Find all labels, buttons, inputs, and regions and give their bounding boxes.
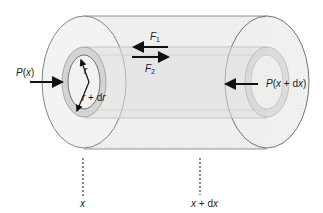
radius-outer-label: r + dr [82, 92, 106, 103]
position-right-label: x + dx [190, 198, 219, 209]
pressure-right-label: P(x + dx) [266, 78, 306, 89]
pressure-left-label: P(x) [16, 67, 34, 78]
annular-shell [62, 47, 289, 118]
position-left-label: x [79, 198, 86, 209]
diagram-canvas: r r + dr P(x) P(x + dx) F1 F2 x x + dx [0, 0, 323, 213]
